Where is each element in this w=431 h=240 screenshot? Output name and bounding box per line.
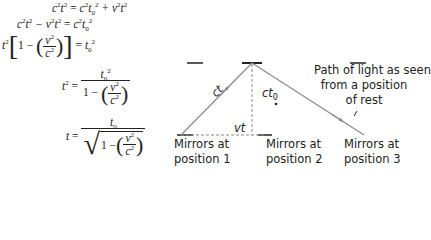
label-vt: vt <box>234 121 245 136</box>
label-mirrors-position-2: Mirrors at position 2 <box>266 137 323 167</box>
center-dot <box>275 103 278 106</box>
label-path-of-light: Path of light as seen from a position of… <box>314 63 414 108</box>
label-ct0: ct0 <box>262 86 278 101</box>
label-mirrors-position-1: Mirrors at position 1 <box>174 137 231 167</box>
label-mirrors-position-3: Mirrors at position 3 <box>344 137 401 167</box>
arrow-down <box>332 115 342 122</box>
label-pointer <box>354 111 357 116</box>
